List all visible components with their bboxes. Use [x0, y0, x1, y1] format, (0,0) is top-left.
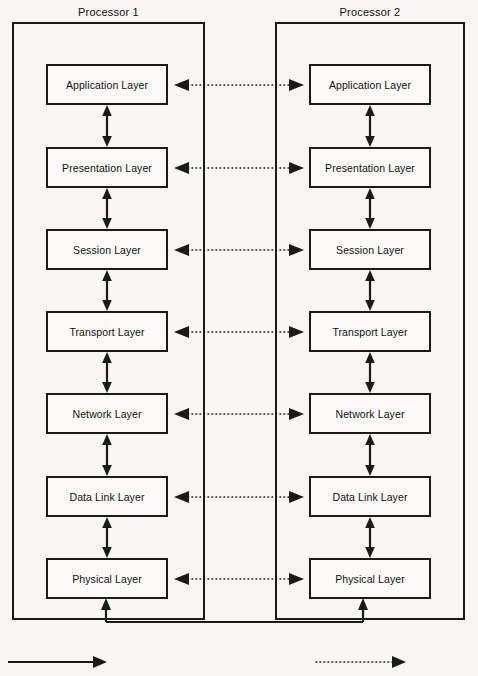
right-layer-transport-label: Transport Layer [332, 326, 407, 338]
right-layer-network-label: Network Layer [336, 408, 405, 420]
right-layer-transport: Transport Layer [309, 311, 431, 352]
right-layer-application-label: Application Layer [329, 79, 411, 91]
left-layer-transport: Transport Layer [46, 311, 168, 352]
left-layer-data-link-label: Data Link Layer [69, 491, 144, 503]
left-layer-transport-label: Transport Layer [69, 326, 144, 338]
left-layer-application: Application Layer [46, 64, 168, 105]
right-layer-presentation-label: Presentation Layer [325, 162, 415, 174]
panel-title-processor-1: Processor 1 [12, 6, 205, 18]
right-layer-application: Application Layer [309, 64, 431, 105]
left-layer-session: Session Layer [46, 229, 168, 270]
left-layer-network-label: Network Layer [73, 408, 142, 420]
left-layer-application-label: Application Layer [66, 79, 148, 91]
right-layer-data-link-label: Data Link Layer [332, 491, 407, 503]
osi-model-diagram: Processor 1 Processor 2 Application Laye… [0, 0, 478, 676]
right-layer-session-label: Session Layer [336, 244, 404, 256]
right-layer-session: Session Layer [309, 229, 431, 270]
right-layer-data-link: Data Link Layer [309, 476, 431, 517]
panel-title-processor-2: Processor 2 [275, 6, 465, 18]
right-layer-presentation: Presentation Layer [309, 147, 431, 188]
left-layer-session-label: Session Layer [73, 244, 141, 256]
left-layer-network: Network Layer [46, 393, 168, 434]
left-layer-data-link: Data Link Layer [46, 476, 168, 517]
right-layer-network: Network Layer [309, 393, 431, 434]
left-layer-presentation-label: Presentation Layer [62, 162, 152, 174]
legend-dotted-arrow [316, 656, 406, 668]
right-layer-physical-label: Physical Layer [335, 573, 405, 585]
right-layer-physical: Physical Layer [309, 558, 431, 599]
left-layer-physical-label: Physical Layer [72, 573, 142, 585]
left-layer-presentation: Presentation Layer [46, 147, 168, 188]
legend-solid-arrow [8, 656, 107, 668]
left-layer-physical: Physical Layer [46, 558, 168, 599]
